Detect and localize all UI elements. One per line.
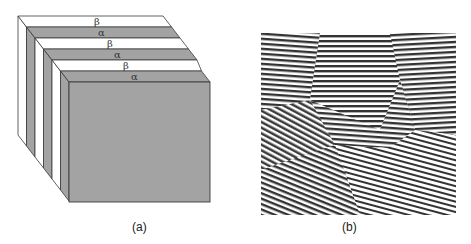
layer-label-beta-1: β (94, 16, 100, 27)
layer-label-beta-2: β (107, 38, 113, 49)
lamellar-micrograph (240, 0, 471, 244)
panel-a-lamellae-schematic: β α β α β α (a) (0, 0, 240, 244)
layer-label-alpha-1: α (98, 27, 105, 38)
layer-label-alpha-3: α (131, 71, 138, 82)
front-face-alpha (69, 82, 210, 202)
grain-domains (261, 33, 456, 215)
layer-label-beta-3: β (123, 60, 129, 71)
caption-a: (a) (132, 220, 147, 234)
caption-b: (b) (342, 220, 357, 234)
lamellae-block-diagram: β α β α β α (0, 0, 240, 244)
panel-b-micrograph: (b) (240, 0, 471, 244)
layer-label-alpha-2: α (114, 49, 121, 60)
